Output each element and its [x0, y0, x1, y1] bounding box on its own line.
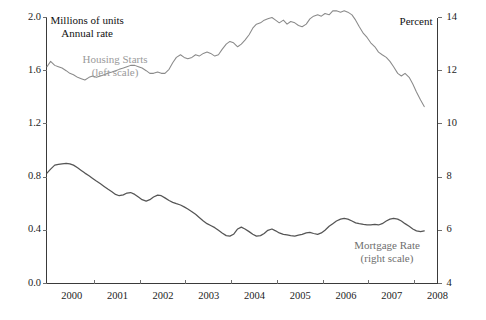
- series-line-mortgage-rate: [47, 163, 424, 236]
- right-tick-label-14: 14: [447, 11, 477, 22]
- housing-starts-annotation: Housing Starts (left scale): [60, 53, 170, 79]
- x-tick-label-2001: 2001: [97, 290, 137, 301]
- x-tick-label-2003: 2003: [189, 290, 229, 301]
- x-tick-label-2002: 2002: [143, 290, 183, 301]
- x-tick-label-2006: 2006: [326, 290, 366, 301]
- series-group: [47, 11, 424, 236]
- right-tick-label-6: 6: [447, 223, 477, 234]
- x-tick-label-2000: 2000: [52, 290, 92, 301]
- housing-starts-scale-note: (left scale): [60, 66, 170, 79]
- mortgage-rate-label: Mortgage Rate: [332, 239, 442, 252]
- housing-starts-label: Housing Starts: [60, 53, 170, 66]
- left-tick-label-0.8: 0.8: [8, 170, 41, 181]
- left-tick-label-0.0: 0.0: [8, 277, 41, 288]
- left-axis-unit-caption: Millions of units Annual rate: [51, 14, 124, 40]
- x-tick-label-2008: 2008: [418, 290, 458, 301]
- x-tick-label-2005: 2005: [280, 290, 320, 301]
- dual-axis-time-series-chart: Millions of units Annual rate Percent Ho…: [0, 0, 486, 320]
- left-tick-label-2.0: 2.0: [8, 11, 41, 22]
- plot-canvas: [0, 0, 486, 320]
- left-tick-label-1.6: 1.6: [8, 64, 41, 75]
- mortgage-rate-annotation: Mortgage Rate (right scale): [332, 239, 442, 265]
- right-axis-unit-caption: Percent: [318, 15, 433, 28]
- left-unit-line-1: Millions of units: [51, 14, 124, 27]
- left-tick-label-0.4: 0.4: [8, 223, 41, 234]
- mortgage-rate-scale-note: (right scale): [332, 252, 442, 265]
- right-tick-label-12: 12: [447, 64, 477, 75]
- left-unit-line-2: Annual rate: [51, 27, 124, 40]
- left-tick-label-1.2: 1.2: [8, 117, 41, 128]
- right-tick-label-8: 8: [447, 170, 477, 181]
- x-tick-label-2007: 2007: [372, 290, 412, 301]
- x-tick-label-2004: 2004: [235, 290, 275, 301]
- right-tick-label-4: 4: [447, 277, 477, 288]
- right-tick-label-10: 10: [447, 117, 477, 128]
